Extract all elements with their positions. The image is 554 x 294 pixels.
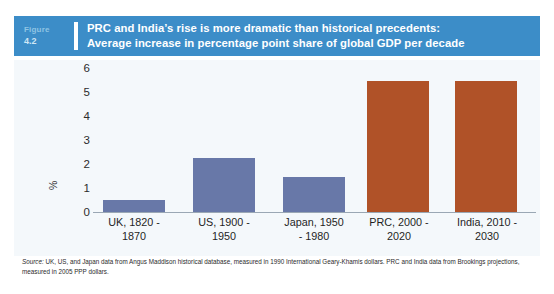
bar-series (93, 68, 536, 212)
figure-root: Figure 4.2 PRC and India’s rise is more … (0, 0, 554, 294)
bar-us (193, 158, 255, 212)
category-label-prc: PRC, 2000 - 2020 (351, 215, 447, 244)
bar-prc (367, 81, 429, 212)
category-label-japan-line2: - 1980 (263, 229, 365, 243)
bar-india (455, 81, 517, 212)
figure-number-box: Figure 4.2 (14, 25, 72, 48)
category-label-prc-line1: PRC, 2000 - (351, 215, 447, 229)
y-tick-6: 6 (60, 62, 90, 74)
category-label-prc-line2: 2020 (351, 229, 447, 243)
category-label-india-line2: 2030 (437, 229, 537, 243)
x-axis-category-labels: UK, 1820 - 1870 US, 1900 - 1950 Japan, 1… (93, 215, 536, 255)
x-axis-line (93, 212, 536, 213)
bar-slot-japan (283, 68, 345, 212)
figure-title-line-1: PRC and India’s rise is more dramatic th… (87, 21, 465, 36)
y-axis-title: % (47, 181, 59, 190)
bar-uk (103, 200, 165, 212)
bar-slot-prc (367, 68, 429, 212)
category-label-japan: Japan, 1950 - 1980 (263, 215, 365, 244)
category-label-uk-line2: 1870 (85, 229, 183, 243)
category-label-japan-line1: Japan, 1950 (263, 215, 365, 229)
source-text: UK, US, and Japan data from Angus Maddis… (22, 258, 519, 275)
y-tick-5: 5 (60, 86, 90, 98)
y-tick-2: 2 (60, 158, 90, 170)
category-label-us: US, 1900 - 1950 (175, 215, 273, 244)
y-axis-ticks: 6 5 4 3 2 1 0 (60, 68, 90, 210)
header-divider-rule (74, 22, 78, 50)
category-label-us-line1: US, 1900 - (175, 215, 273, 229)
figure-label-word: Figure (24, 25, 72, 36)
category-label-india-line1: India, 2010 - (437, 215, 537, 229)
y-tick-3: 3 (60, 134, 90, 146)
bar-slot-uk (103, 68, 165, 212)
figure-title: PRC and India’s rise is more dramatic th… (87, 21, 465, 52)
figure-title-line-2: Average increase in percentage point sha… (87, 36, 465, 51)
bar-slot-india (455, 68, 517, 212)
y-tick-4: 4 (60, 110, 90, 122)
category-label-uk-line1: UK, 1820 - (85, 215, 183, 229)
figure-number: 4.2 (24, 35, 72, 47)
figure-header-band: Figure 4.2 PRC and India’s rise is more … (14, 16, 540, 56)
category-label-us-line2: 1950 (175, 229, 273, 243)
y-tick-1: 1 (60, 182, 90, 194)
source-prefix: Source: (22, 258, 44, 265)
category-label-india: India, 2010 - 2030 (437, 215, 537, 244)
category-label-uk: UK, 1820 - 1870 (85, 215, 183, 244)
bar-japan (283, 177, 345, 212)
chart-plot-area: % 6 5 4 3 2 1 0 (14, 60, 540, 256)
bar-slot-us (193, 68, 255, 212)
source-note: Source: UK, US, and Japan data from Angu… (22, 257, 534, 278)
